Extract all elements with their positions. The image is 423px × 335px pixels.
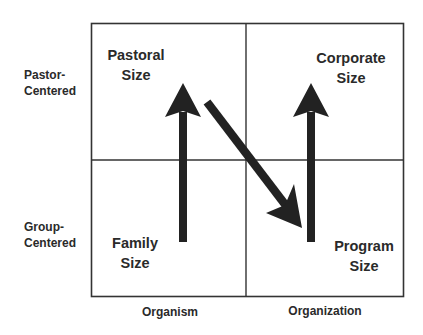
row-label-pastor-centered: Pastor- Centered	[24, 67, 76, 99]
quadrant-label-line: Size	[330, 257, 398, 277]
arrow-up-family-to-pastoral	[165, 83, 201, 242]
quadrant-label-line: Pastoral	[104, 46, 168, 66]
quadrant-label-line: Family	[107, 234, 163, 254]
quadrant-label-family-size: Family Size	[107, 234, 163, 273]
row-label-group-centered: Group- Centered	[24, 219, 76, 251]
column-label-organism: Organism	[130, 304, 210, 320]
row-label-line: Centered	[24, 235, 76, 251]
quadrant-label-program-size: Program Size	[330, 237, 398, 276]
quadrant-label-line: Size	[104, 66, 168, 86]
row-label-line: Pastor-	[24, 67, 76, 83]
quadrant-label-line: Corporate	[314, 49, 388, 69]
row-label-line: Group-	[24, 219, 76, 235]
quadrant-label-line: Size	[314, 69, 388, 89]
column-label-organization: Organization	[280, 303, 370, 319]
row-label-line: Centered	[24, 83, 76, 99]
quadrant-label-line: Program	[330, 237, 398, 257]
quadrant-label-corporate-size: Corporate Size	[314, 49, 388, 88]
quadrant-label-pastoral-size: Pastoral Size	[104, 46, 168, 85]
arrow-diagonal-pastoral-to-program	[207, 102, 302, 228]
quadrant-label-line: Size	[107, 254, 163, 274]
